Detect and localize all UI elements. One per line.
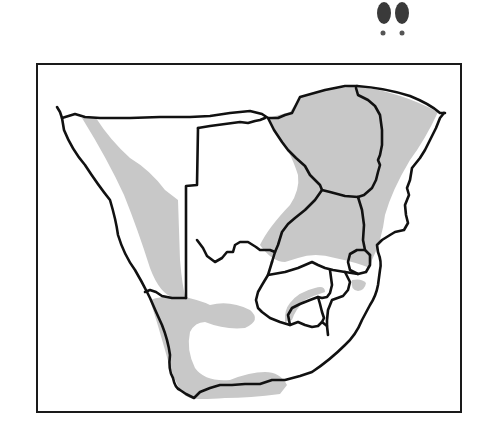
border-free-state-east bbox=[318, 270, 332, 298]
range-karoo-west bbox=[150, 296, 287, 399]
border-namibia-botswana bbox=[186, 128, 198, 298]
species-range bbox=[82, 86, 438, 399]
range-kzn-patch bbox=[352, 279, 366, 291]
range-namibia-west bbox=[82, 118, 186, 300]
border-caprivi-south bbox=[198, 118, 265, 128]
southern-africa-map bbox=[0, 0, 494, 431]
